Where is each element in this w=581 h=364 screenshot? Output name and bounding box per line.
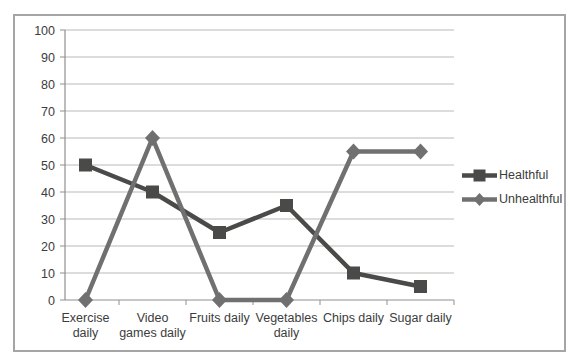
category-label: Sugar daily: [389, 311, 452, 325]
healthful-marker: [79, 159, 92, 172]
unhealthful-marker: [145, 130, 160, 146]
healthful-series-swatch-icon: [461, 167, 498, 184]
category-label: Exercisedaily: [62, 311, 110, 340]
y-tick-label: 20: [41, 240, 55, 254]
y-tick-label: 90: [41, 51, 55, 65]
healthful-marker: [414, 280, 427, 293]
y-tick-label: 100: [34, 24, 55, 38]
y-tick-label: 50: [41, 159, 55, 173]
healthful-marker: [280, 199, 293, 212]
y-tick-label: 60: [41, 132, 55, 146]
category-label: Chips daily: [323, 311, 385, 325]
healthful-marker: [347, 267, 360, 280]
legend-label-healthful: Healthful: [499, 169, 548, 182]
scanned-line-chart-figure: 0102030405060708090100ExercisedailyVideo…: [0, 0, 581, 364]
legend-item-healthful: Healthful: [461, 163, 562, 187]
unhealthful-marker: [279, 292, 294, 308]
category-label: Fruits daily: [189, 311, 250, 325]
healthful-marker: [213, 226, 226, 239]
unhealthful-series-swatch-icon: [461, 191, 498, 208]
unhealthful-marker: [413, 144, 428, 160]
legend-label-unhealthful: Unhealthful: [499, 193, 562, 206]
y-tick-label: 10: [41, 267, 55, 281]
chart-legend: Healthful Unhealthful: [461, 163, 562, 211]
unhealthful-marker: [212, 292, 227, 308]
y-tick-label: 40: [41, 186, 55, 200]
unhealthful-marker: [346, 144, 361, 160]
y-tick-label: 80: [41, 78, 55, 92]
legend-item-unhealthful: Unhealthful: [461, 187, 562, 211]
unhealthful-marker: [78, 292, 93, 308]
y-tick-label: 0: [48, 294, 55, 308]
y-tick-label: 30: [41, 213, 55, 227]
category-label: Vegetablesdaily: [256, 311, 318, 340]
y-tick-label: 70: [41, 105, 55, 119]
healthful-marker: [146, 186, 159, 199]
category-label: Videogames daily: [119, 311, 186, 340]
